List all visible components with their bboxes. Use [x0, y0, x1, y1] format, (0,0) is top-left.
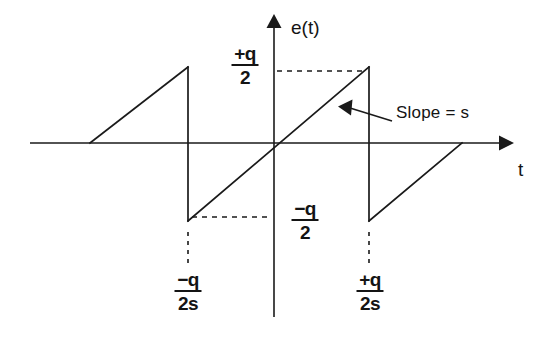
label-pos-q-over-2s-numerator: +q [357, 270, 383, 290]
label-pos-q-over-2s: +q 2s [357, 270, 384, 313]
label-neg-q-over-2-denominator: 2 [300, 221, 310, 242]
ramp-segment-center [188, 67, 369, 221]
quantization-error-figure: e(t) t +q 2 −q 2 −q 2s +q 2s Slope = s [0, 0, 543, 341]
ramp-segment-left [90, 67, 188, 143]
slope-annotation-leader [338, 100, 392, 122]
label-neg-q-over-2-numerator: −q [292, 199, 318, 219]
waveform-plot [0, 0, 543, 341]
y-axis [267, 14, 282, 317]
label-neg-q-over-2s-numerator: −q [175, 270, 201, 290]
x-axis-label: t [518, 160, 523, 179]
sawtooth-waveform [90, 67, 462, 221]
slope-annotation-label: Slope = s [396, 104, 469, 121]
label-pos-q-over-2: +q 2 [232, 44, 259, 87]
ramp-segment-right [369, 143, 462, 221]
label-pos-q-over-2-denominator: 2 [240, 66, 250, 87]
label-neg-q-over-2s-denominator: 2s [178, 292, 198, 313]
x-axis [30, 136, 514, 151]
label-neg-q-over-2s: −q 2s [175, 270, 202, 313]
label-pos-q-over-2s-denominator: 2s [360, 292, 380, 313]
y-axis-label: e(t) [291, 18, 320, 37]
label-neg-q-over-2: −q 2 [292, 199, 319, 242]
dashed-tick-guides [188, 232, 369, 268]
label-pos-q-over-2-numerator: +q [232, 44, 258, 64]
